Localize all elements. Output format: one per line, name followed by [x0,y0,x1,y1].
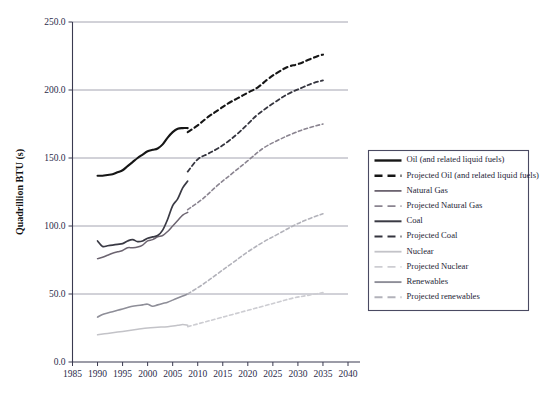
data-series-group [98,55,323,335]
y-axis-title-group: Quadrillion BTU (s) [14,149,26,235]
series-line [188,55,323,133]
legend-label: Projected Oil (and related liquid fuels) [407,170,540,180]
line-chart-figure: 0.050.0100.0150.0200.0250.0 198519901995… [0,0,556,401]
y-axis-title: Quadrillion BTU (s) [14,149,26,235]
series-line [98,325,188,335]
x-tick-label: 2015 [213,369,232,379]
x-tick-label: 2020 [238,369,257,379]
x-tick-label: 2000 [138,369,157,379]
x-tick-label: 2040 [339,369,358,379]
y-tick-label: 200.0 [44,85,66,95]
legend: Oil (and related liquid fuels)Projected … [369,151,540,311]
y-tick-label: 0.0 [54,357,66,367]
series-line [188,124,323,210]
y-tick-label: 50.0 [49,289,66,299]
legend-label: Coal [407,215,424,225]
x-tick-label: 2025 [263,369,282,379]
series-line [188,293,323,327]
series-line [98,128,188,176]
x-tick-label: 2005 [163,369,182,379]
y-tick-label: 250.0 [44,17,66,27]
legend-label: Renewables [407,276,449,286]
x-tick-label: 2035 [313,369,332,379]
x-tick-label: 2010 [188,369,207,379]
x-tick-label: 1990 [88,369,107,379]
legend-label: Projected renewables [407,291,481,301]
chart-container: 0.050.0100.0150.0200.0250.0 198519901995… [0,0,556,401]
x-tick-labels-group: 1985199019952000200520102015202020252030… [63,369,358,379]
legend-label: Nuclear [407,246,434,256]
legend-label: Projected Nuclear [407,261,469,271]
series-line [98,294,188,317]
series-line [98,181,188,247]
y-tick-label: 100.0 [44,221,66,231]
legend-label: Oil (and related liquid fuels) [407,154,505,164]
y-tick-label: 150.0 [44,153,66,163]
legend-label: Projected Natural Gas [407,200,484,210]
legend-label: Projected Coal [407,230,458,240]
y-tick-labels-group: 0.050.0100.0150.0200.0250.0 [44,17,66,367]
x-tick-label: 1995 [113,369,132,379]
x-tick-label: 1985 [63,369,82,379]
x-tick-label: 2030 [288,369,307,379]
series-line [98,212,188,258]
legend-label: Natural Gas [407,185,449,195]
axes-group [69,22,361,366]
